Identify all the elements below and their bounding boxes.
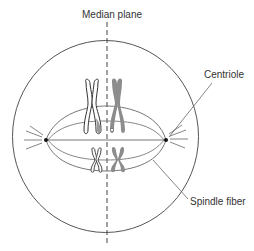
spindle-fiber-outer-lower	[46, 140, 166, 171]
cell-division-diagram: Median plane Centriole Spindle fiber	[0, 0, 254, 251]
spindle-fiber-outer-upper	[46, 106, 166, 140]
median-plane-label: Median plane	[82, 10, 142, 20]
chromosome-upper-gray	[110, 78, 125, 133]
spindle-fiber-leader-line	[153, 160, 188, 199]
spindle-fiber-label: Spindle fiber	[190, 197, 246, 207]
astral-rays-right	[169, 125, 188, 148]
spindle-fiber-inner-lower	[48, 140, 164, 160]
centriole-label: Centriole	[204, 70, 244, 80]
centriole-leader-line	[169, 83, 212, 137]
centriole-right	[164, 138, 168, 142]
spindle-fiber-inner-upper	[48, 121, 164, 140]
centriole-left	[44, 138, 48, 142]
astral-rays-left	[24, 126, 43, 149]
